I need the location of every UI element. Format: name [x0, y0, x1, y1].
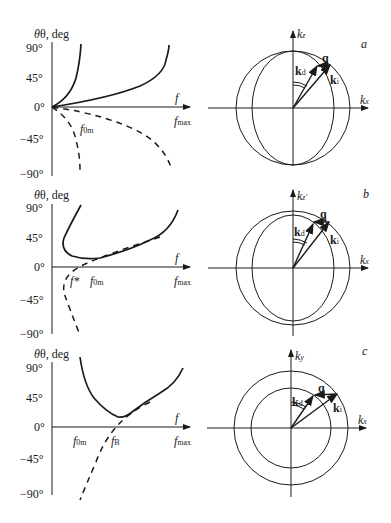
annotation-fB: fB [111, 434, 120, 448]
ytick-0: 0° [34, 260, 45, 274]
kx-axis-label: kx [358, 413, 367, 427]
solid-curve [63, 205, 178, 259]
x-max-sub: max [177, 118, 191, 127]
panel-label-a: a [361, 37, 367, 51]
annotation-f0m: f0m [90, 274, 104, 288]
kx-axis-label: kx [360, 93, 369, 107]
panel-label-b: b [363, 187, 369, 201]
ytick-minus45: −45° [20, 132, 44, 146]
kd-sub: d [302, 68, 306, 77]
y-axis-label-text: θ, deg [40, 27, 69, 41]
panel-b-diagram: b kz′ kx kd ki q [208, 187, 369, 336]
x-max-sub: max [177, 278, 191, 287]
panel-c-plot: θθ, deg 90° 45° 0° −45° −90° f fmax f0m … [20, 347, 191, 501]
annotation-fstar: f* [70, 274, 79, 288]
x-axis-label: f [175, 91, 180, 105]
dashed-curve [80, 402, 150, 500]
y-axis-label: θθ, deg [34, 347, 69, 361]
kd-label: kd [292, 395, 303, 409]
x-axis-label: f [175, 251, 180, 265]
q-label: q [320, 207, 327, 221]
kd-sub: d [301, 229, 305, 238]
ytick-minus90: −90° [20, 487, 44, 501]
kd-label: kd [295, 64, 306, 78]
solid-curve [80, 357, 183, 417]
solid-curve-1 [52, 44, 81, 107]
ytick-90: 90° [26, 201, 43, 215]
angle-arc-1 [293, 85, 305, 88]
kz-axis-label: kz [297, 27, 306, 41]
ky-axis-label: ky [295, 349, 304, 363]
ki-sub: i [337, 77, 340, 86]
f0m-sub: 0m [76, 438, 87, 447]
kx-sub: x [364, 97, 369, 106]
y-axis-label: θθ, deg [34, 27, 69, 41]
ki-sub: i [340, 405, 343, 414]
solid-curve-2 [52, 45, 169, 107]
figure-canvas: θθ, deg 90° 45° 0° −45° −90° f fmax f0m … [0, 0, 391, 523]
kx-axis-label: kx [360, 253, 369, 267]
angle-arc-1 [293, 242, 305, 245]
f0m-sub: 0m [83, 126, 94, 135]
ki-label: ki [330, 73, 340, 87]
kz-sub: z [301, 31, 306, 40]
ki-label: ki [330, 233, 340, 247]
ytick-45: 45° [26, 71, 43, 85]
panel-a-diagram: a kz kx kd ki q [208, 27, 369, 165]
dashed-curve-2 [52, 107, 172, 170]
kd-sub: d [299, 399, 303, 408]
ytick-minus45: −45° [20, 293, 44, 307]
kd-label: kd [294, 225, 305, 239]
panel-a-plot: θθ, deg 90° 45° 0° −45° −90° f fmax f0m [20, 27, 191, 181]
ki-label: ki [333, 401, 343, 415]
q-vector [318, 65, 330, 66]
x-max-label: fmax [174, 274, 191, 288]
ytick-90: 90° [26, 361, 43, 375]
kz-sub: z′ [301, 193, 307, 202]
ky-sub: y [299, 353, 304, 362]
x-max-sub: max [177, 438, 191, 447]
fB-sub: B [114, 438, 119, 447]
dashed-curve-1 [52, 107, 80, 170]
panel-c-diagram: c ky kx kd ki q [207, 344, 368, 497]
x-max-label: fmax [174, 434, 191, 448]
f0m-sub: 0m [93, 278, 104, 287]
kz-prime-axis-label: kz′ [297, 189, 307, 203]
ytick-90: 90° [26, 41, 43, 55]
ytick-45: 45° [26, 231, 43, 245]
panel-label-c: c [362, 344, 368, 358]
q-label: q [322, 51, 329, 65]
panel-b-plot: θθ, deg 90° 45° 0° −45° −90° f fmax f* f… [20, 188, 191, 341]
annotation-f0m: f0m [73, 434, 87, 448]
annotation-f0m: f0m [80, 122, 94, 136]
kx-sub: x [364, 257, 369, 266]
x-axis-label: f [175, 411, 180, 425]
q-label: q [318, 381, 325, 395]
ki-sub: i [337, 237, 340, 246]
y-axis-label-text: θ, deg [40, 347, 69, 361]
ytick-minus90: −90° [20, 167, 44, 181]
ytick-0: 0° [34, 420, 45, 434]
ytick-0: 0° [34, 100, 45, 114]
ytick-minus90: −90° [20, 327, 44, 341]
y-axis-label: θθ, deg [34, 188, 69, 202]
ytick-45: 45° [26, 391, 43, 405]
kx-sub: x [362, 417, 367, 426]
x-max-label: fmax [174, 114, 191, 128]
y-axis-label-text: θ, deg [40, 188, 69, 202]
ytick-minus45: −45° [20, 452, 44, 466]
